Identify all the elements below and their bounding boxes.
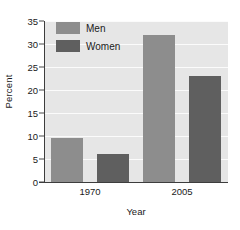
x-axis-line <box>39 182 228 183</box>
y-axis-title: Percent <box>0 0 16 182</box>
y-axis-line <box>44 21 45 182</box>
y-axis-tick-labels: 05101520253035 <box>16 0 38 230</box>
legend-swatch-women-icon <box>56 40 80 52</box>
legend-label-women: Women <box>86 41 120 52</box>
x-axis-title: Year <box>44 206 228 217</box>
y-axis-title-text: Percent <box>3 74 14 108</box>
y-axis-tick-label: 35 <box>27 16 38 27</box>
legend-swatch-men-icon <box>56 22 80 34</box>
legend-item-men: Men <box>56 22 120 34</box>
y-axis-tick-label: 15 <box>27 108 38 119</box>
y-axis-tick-label: 25 <box>27 62 38 73</box>
bar-chart: Percent 05101520253035 Men Women 1970200… <box>0 0 240 230</box>
bar-men-2005 <box>143 35 175 182</box>
y-axis-tick-label: 30 <box>27 39 38 50</box>
y-axis-tick-label: 20 <box>27 85 38 96</box>
x-axis-tick-label: 1970 <box>79 186 100 197</box>
legend-item-women: Women <box>56 40 120 52</box>
x-axis-tick-labels: 19702005 <box>44 186 228 200</box>
y-axis-tick-label: 5 <box>33 154 38 165</box>
y-axis-tick-label: 0 <box>33 177 38 188</box>
legend: Men Women <box>56 22 120 52</box>
bar-women-1970 <box>97 154 129 182</box>
y-axis-tick-label: 10 <box>27 131 38 142</box>
x-axis-tick-label: 2005 <box>171 186 192 197</box>
bar-men-1970 <box>51 138 83 182</box>
legend-label-men: Men <box>86 23 105 34</box>
bar-women-2005 <box>189 76 221 182</box>
